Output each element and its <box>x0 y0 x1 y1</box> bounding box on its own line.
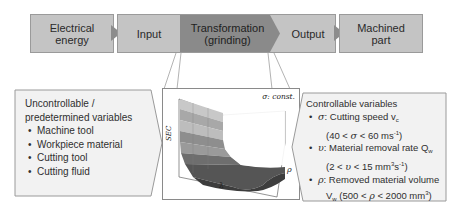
list-item: ρ: Removed material volume Vw (500 < ρ <… <box>306 174 439 206</box>
list-item: Machine tool <box>25 124 132 138</box>
list-item: σ: Cutting speed vc (40 < σ < 60 ms-1) <box>306 111 439 143</box>
list-item: Cutting fluid <box>25 165 132 179</box>
uncontrollable-list: Machine tool Workpiece material Cutting … <box>25 124 132 178</box>
list-item: υ: Material removal rate Qw (2 < υ < 15 … <box>306 142 439 174</box>
uncontrollable-title: predetermined variables <box>25 111 132 125</box>
axis-label-x: λ <box>219 181 224 190</box>
uncontrollable-panel: Uncontrollable / predetermined variables… <box>25 97 132 178</box>
controllable-title: Controllable variables <box>306 98 439 111</box>
controllable-panel: Controllable variables σ: Cutting speed … <box>306 98 439 206</box>
surface-plot-graphic <box>163 89 299 199</box>
list-item: Workpiece material <box>25 138 132 152</box>
list-item: Cutting tool <box>25 151 132 165</box>
axis-label-z: SEC <box>165 126 173 141</box>
controllable-list: σ: Cutting speed vc (40 < σ < 60 ms-1) υ… <box>306 111 439 206</box>
sec-surface-plot: σ: const. SEC λ ρ <box>162 88 300 200</box>
uncontrollable-title: Uncontrollable / <box>25 97 132 111</box>
